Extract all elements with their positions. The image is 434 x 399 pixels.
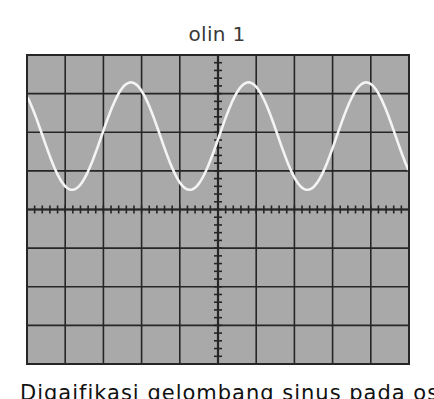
oscilloscope-screen — [0, 0, 434, 399]
figure-caption: Digaifikasi gelombang sinus pada osilosk… — [20, 381, 434, 399]
